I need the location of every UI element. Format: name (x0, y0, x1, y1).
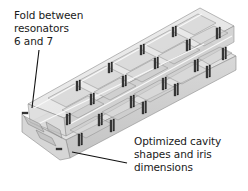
annotation-fold-line-2: resonators (14, 22, 83, 35)
annotation-fold-line-3: 6 and 7 (14, 35, 83, 48)
annotation-cavity-line-2: shapes and iris (134, 148, 221, 161)
annotation-fold-between-resonators: Fold between resonators 6 and 7 (14, 9, 83, 48)
annotation-cavity-line-3: dimensions (134, 161, 221, 174)
annotation-cavity-line-1: Optimized cavity (134, 135, 221, 148)
annotation-fold-line-1: Fold between (14, 9, 83, 22)
annotation-optimized-cavity: Optimized cavity shapes and iris dimensi… (134, 135, 221, 174)
leader-line-cavity (72, 152, 127, 163)
